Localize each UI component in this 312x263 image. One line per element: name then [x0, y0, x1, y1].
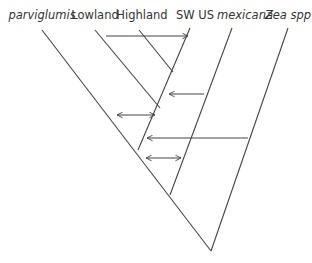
phylogenetic-tree — [0, 0, 312, 263]
branch-sw-us — [138, 28, 190, 150]
branch-lowland — [95, 30, 160, 108]
branch-zea-spp — [211, 28, 288, 251]
branch-parviglumis — [42, 30, 211, 251]
